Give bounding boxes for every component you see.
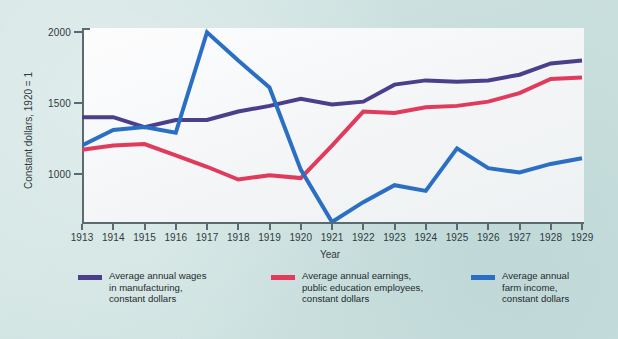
legend-label-0: Average annual wages in manufacturing, c… <box>109 270 206 305</box>
legend-swatch-1 <box>271 275 295 280</box>
legend-item-1[interactable]: Average annual earnings, public educatio… <box>271 270 471 305</box>
legend-label-2: Average annual farm income, constant dol… <box>502 270 569 305</box>
legend-swatch-2 <box>471 275 495 280</box>
x-axis-title-text: Year <box>320 249 340 260</box>
chart-legend: Average annual wages in manufacturing, c… <box>78 270 598 326</box>
legend-label-1: Average annual earnings, public educatio… <box>302 270 423 305</box>
y-axis-title: Constant dollars, 1920 = 1 <box>23 41 34 221</box>
legend-item-0[interactable]: Average annual wages in manufacturing, c… <box>78 270 271 305</box>
series-line-0 <box>82 61 582 128</box>
legend-item-2[interactable]: Average annual farm income, constant dol… <box>471 270 598 305</box>
chart-figure: 100015002000 191319141915191619171918191… <box>0 0 618 339</box>
legend-swatch-0 <box>78 275 102 280</box>
x-axis-title: Year <box>0 249 618 260</box>
series-line-2 <box>82 32 582 222</box>
